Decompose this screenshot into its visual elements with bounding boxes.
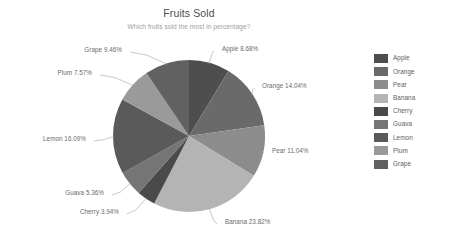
legend-item[interactable]: Orange	[374, 65, 442, 78]
leader-line	[94, 136, 114, 141]
legend-item[interactable]: Cherry	[374, 105, 442, 118]
slice-label: Apple 8.68%	[222, 45, 258, 52]
pie-slices	[113, 60, 265, 212]
legend-item-label: Grape	[393, 161, 411, 167]
leader-line	[252, 88, 254, 95]
leader-line	[130, 52, 167, 64]
legend-item[interactable]: Grape	[374, 158, 442, 171]
slice-label: Banana 23.82%	[225, 218, 270, 225]
slice-label: Cherry 3.94%	[80, 208, 119, 215]
legend-item-label: Guava	[393, 121, 412, 127]
legend-swatch-icon	[374, 94, 388, 103]
legend-item-label: Lemon	[393, 135, 413, 141]
slice-label: Orange 14.04%	[262, 82, 307, 89]
pie-chart-card: Fruits Sold Which fruits sold the most i…	[0, 0, 450, 249]
chart-subtitle: Which fruits sold the most in percentage…	[0, 23, 378, 30]
legend-swatch-icon	[374, 80, 388, 89]
slice-label: Pear 11.04%	[272, 147, 309, 154]
chart-title: Fruits Sold	[0, 7, 378, 19]
legend-item[interactable]: Plum	[374, 144, 442, 157]
leader-line	[112, 183, 131, 195]
legend-item-label: Pear	[393, 82, 407, 88]
legend-swatch-icon	[374, 160, 388, 169]
legend-item-label: Apple	[393, 55, 410, 61]
legend-swatch-icon	[374, 146, 388, 155]
leader-line	[209, 51, 214, 64]
chart-legend: AppleOrangePearBananaCherryGuavaLemonPlu…	[374, 52, 442, 171]
slice-label: Plum 7.57%	[58, 69, 92, 76]
legend-swatch-icon	[374, 107, 388, 116]
legend-item[interactable]: Guava	[374, 118, 442, 131]
plot-area: Apple 8.68%Orange 14.04%Pear 11.04%Banan…	[0, 30, 378, 249]
legend-item-label: Banana	[393, 95, 415, 101]
leader-line	[209, 208, 217, 224]
legend-item[interactable]: Pear	[374, 78, 442, 91]
slice-label: Grape 9.46%	[84, 46, 122, 53]
legend-item[interactable]: Lemon	[374, 131, 442, 144]
slice-label: Guava 5.36%	[65, 189, 104, 196]
legend-swatch-icon	[374, 54, 388, 63]
legend-item[interactable]: Apple	[374, 52, 442, 65]
legend-item-label: Orange	[393, 69, 415, 75]
legend-swatch-icon	[374, 120, 388, 129]
leader-line	[127, 198, 147, 214]
legend-item[interactable]: Banana	[374, 92, 442, 105]
legend-swatch-icon	[374, 133, 388, 142]
legend-item-label: Cherry	[393, 108, 412, 114]
legend-swatch-icon	[374, 67, 388, 76]
slice-label: Lemon 16.09%	[43, 135, 86, 142]
legend-item-label: Plum	[393, 148, 408, 154]
leader-line	[100, 75, 134, 86]
